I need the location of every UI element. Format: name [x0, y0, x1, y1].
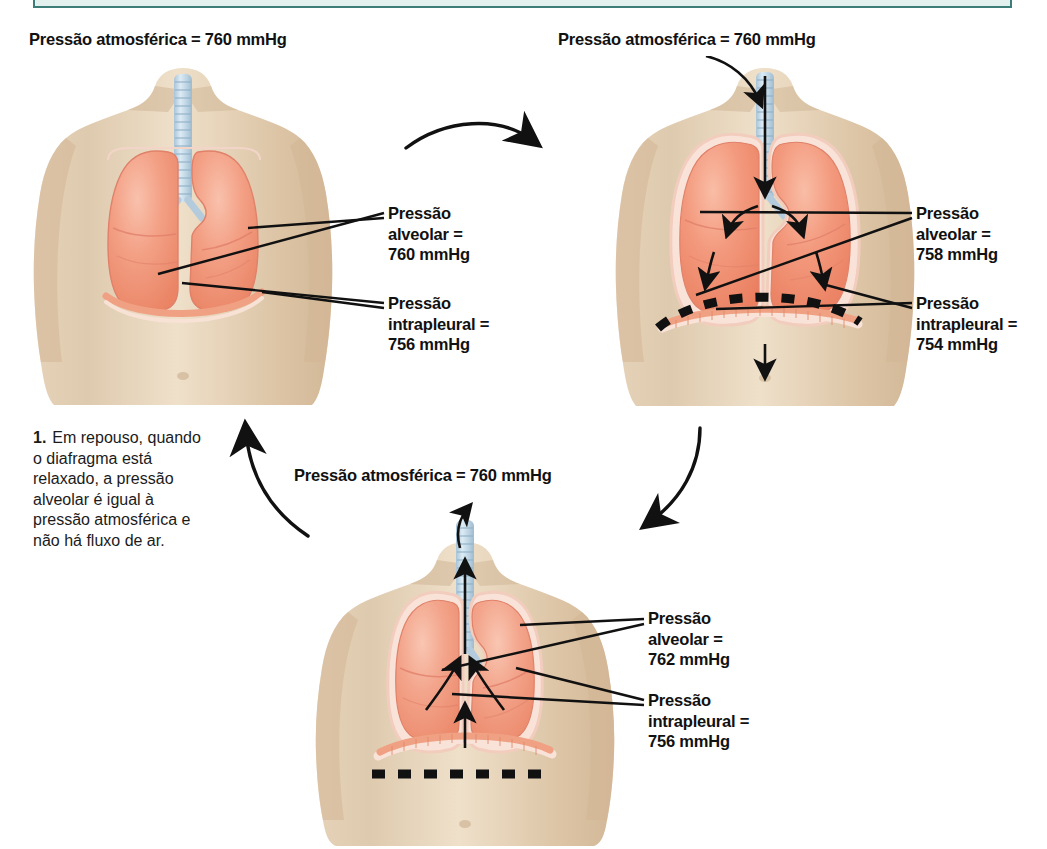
step-note-1: 1.Em repouso, quando o diafragma está re…	[33, 428, 209, 551]
label-intrapleural-pressure-inspiration: Pressão intrapleural = 754 mmHg	[916, 293, 1017, 355]
label-alveolar-pressure-expiration: Pressão alveolar = 762 mmHg	[648, 608, 730, 670]
label-intrapleural-pressure-rest: Pressão intrapleural = 756 mmHg	[388, 293, 489, 355]
torso-illustration-rest	[18, 60, 348, 405]
torso-illustration-inspiration	[600, 56, 930, 406]
step-number: 1.	[33, 428, 46, 449]
cycle-arrow-inspiration-to-expiration	[650, 428, 700, 522]
label-alveolar-pressure-inspiration: Pressão alveolar = 758 mmHg	[916, 203, 998, 265]
step-text: Em repouso, quando o diafragma está rela…	[33, 429, 201, 549]
panel-inspiration-title: Pressão atmosférica = 760 mmHg	[558, 30, 816, 49]
label-alveolar-pressure-rest: Pressão alveolar = 760 mmHg	[388, 203, 470, 265]
torso-illustration-expiration	[300, 498, 630, 846]
cycle-arrow-rest-to-inspiration	[406, 124, 532, 148]
diagram-canvas: Pressão atmosférica = 760 mmHg	[0, 0, 1047, 849]
label-intrapleural-pressure-expiration: Pressão intrapleural = 756 mmHg	[648, 690, 749, 752]
panel-expiration-title: Pressão atmosférica = 760 mmHg	[294, 466, 552, 485]
panel-rest-title: Pressão atmosférica = 760 mmHg	[29, 30, 287, 49]
top-banner-strip	[33, 0, 1012, 8]
